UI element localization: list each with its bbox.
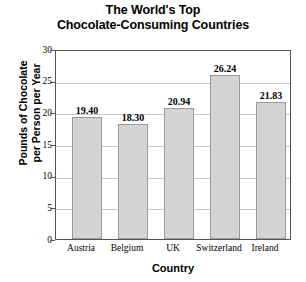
y-tick-mark-0 bbox=[50, 240, 55, 241]
bar-switzerland[interactable] bbox=[210, 75, 240, 240]
chart-title-line-1: The World's Top bbox=[0, 3, 306, 18]
bar-ireland[interactable] bbox=[256, 102, 286, 239]
x-axis-label: Country bbox=[55, 262, 291, 274]
plot-area: 19.40 18.30 20.94 26.24 21.83 bbox=[55, 50, 291, 240]
bar-value-uk: 20.94 bbox=[156, 96, 202, 107]
y-axis-label-line-1: Pounds of Chocolate bbox=[17, 33, 30, 193]
bar-value-switzerland: 26.24 bbox=[202, 63, 248, 74]
bar-uk[interactable] bbox=[164, 108, 194, 239]
x-category-label-ireland: Ireland bbox=[232, 243, 298, 254]
chart-title-line-2: Chocolate-Consuming Countries bbox=[0, 18, 306, 33]
bar-austria[interactable] bbox=[72, 117, 102, 239]
y-tick-label-20: 20 bbox=[32, 109, 52, 119]
y-tick-label-5: 5 bbox=[32, 204, 52, 214]
bar-value-ireland: 21.83 bbox=[248, 90, 294, 101]
bar-value-belgium: 18.30 bbox=[110, 112, 156, 123]
chart-title: The World's Top Chocolate-Consuming Coun… bbox=[0, 3, 306, 33]
bar-belgium[interactable] bbox=[118, 124, 148, 239]
y-tick-label-15: 15 bbox=[32, 141, 52, 151]
y-tick-label-30: 30 bbox=[32, 46, 52, 56]
y-tick-label-10: 10 bbox=[32, 172, 52, 182]
gridline-25 bbox=[56, 83, 290, 84]
y-tick-label-25: 25 bbox=[32, 77, 52, 87]
bar-value-austria: 19.40 bbox=[64, 105, 110, 116]
